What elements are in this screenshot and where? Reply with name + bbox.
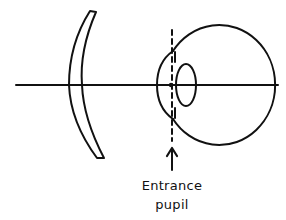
pupil-center-dot [169, 83, 173, 87]
pupil-label: pupil [127, 197, 217, 213]
entrance-label: Entrance [127, 178, 217, 194]
